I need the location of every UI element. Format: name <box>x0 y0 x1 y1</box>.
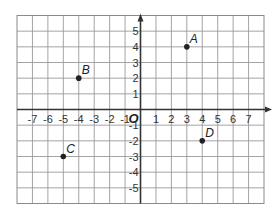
x-tick-label: -3 <box>89 113 99 125</box>
x-tick-label: -4 <box>74 113 84 125</box>
y-tick-label: -2 <box>129 135 139 147</box>
y-tick-label: 5 <box>132 25 138 37</box>
point-dot-icon <box>61 154 67 160</box>
x-tick-label: -5 <box>58 113 68 125</box>
point-label: D <box>205 126 214 140</box>
point-dot-icon <box>199 138 205 144</box>
x-tick-label: -2 <box>105 113 115 125</box>
y-tick-label: 1 <box>132 88 138 100</box>
y-tick-label: -4 <box>129 166 139 178</box>
y-tick-label: 4 <box>132 41 138 53</box>
point-label: B <box>82 63 90 77</box>
origin-label: O <box>129 111 139 126</box>
x-tick-label: 4 <box>199 113 205 125</box>
point-label: C <box>66 142 75 156</box>
x-tick-label: 2 <box>168 113 174 125</box>
x-axis-tick-labels: -7-6-5-4-3-2-11234567 <box>28 113 252 125</box>
point-label: A <box>189 32 198 46</box>
x-tick-label: 1 <box>153 113 159 125</box>
x-tick-label: 6 <box>230 113 236 125</box>
y-tick-label: 3 <box>132 57 138 69</box>
x-tick-label: -7 <box>28 113 38 125</box>
coordinate-plane: -7-6-5-4-3-2-11234567 54321-1-2-3-4-5 O … <box>0 0 276 217</box>
x-axis-arrow-icon <box>265 107 272 113</box>
y-tick-label: 2 <box>132 72 138 84</box>
x-tick-label: 3 <box>184 113 190 125</box>
y-tick-label: -5 <box>129 182 139 194</box>
point-dot-icon <box>76 75 82 81</box>
x-tick-label: 5 <box>215 113 221 125</box>
y-tick-label: -3 <box>129 151 139 163</box>
axes <box>17 14 272 204</box>
y-axis-arrow-icon <box>138 14 144 22</box>
x-tick-label: -6 <box>43 113 53 125</box>
point-dot-icon <box>184 44 190 50</box>
x-tick-label: 7 <box>246 113 252 125</box>
